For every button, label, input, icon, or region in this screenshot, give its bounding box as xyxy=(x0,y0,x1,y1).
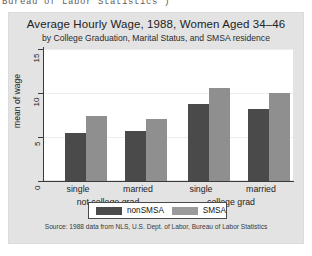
chart-screenshot: Bureau of Labor Statistics ) Average Hou… xyxy=(0,0,312,256)
chart-subtitle: by College Graduation, Marital Status, a… xyxy=(8,33,304,43)
source-note: Source: 1988 data from NLS, U.S. Dept. o… xyxy=(8,223,304,230)
bar-not-college-grad-single-nonsmsa xyxy=(65,133,86,181)
bar-not-college-grad-married-nonsmsa xyxy=(125,131,146,181)
bar-college-grad-single-smsa xyxy=(209,88,230,181)
x-axis-line xyxy=(43,181,294,182)
bar-college-grad-married-smsa xyxy=(269,93,290,181)
figure-panel: Average Hourly Wage, 1988, Women Aged 34… xyxy=(8,12,304,244)
y-tick-label-15: 15 xyxy=(33,54,42,63)
y-tick-label-0: 0 xyxy=(33,186,42,190)
legend-label-smsa: SMSA xyxy=(203,206,226,215)
bar-college-grad-single-nonsmsa xyxy=(188,104,209,181)
legend-item-nonsmsa[interactable]: nonSMSA xyxy=(96,206,164,215)
chart-legend: nonSMSA SMSA xyxy=(88,202,227,219)
x-label-group2-single: single xyxy=(173,184,229,194)
y-tick-0 xyxy=(38,181,43,182)
bar-not-college-grad-single-smsa xyxy=(86,116,107,181)
y-axis-label: mean of wage xyxy=(12,66,22,136)
bars-container xyxy=(43,49,294,181)
x-label-group1-married: married xyxy=(110,184,166,194)
y-tick-label-10: 10 xyxy=(33,98,42,107)
y-tick-label-5: 5 xyxy=(33,142,42,146)
legend-swatch-nonsmsa xyxy=(96,207,122,215)
x-label-group2-married: married xyxy=(233,184,289,194)
legend-swatch-smsa xyxy=(172,207,198,215)
bar-not-college-grad-married-smsa xyxy=(146,119,167,181)
clipped-header-text: Bureau of Labor Statistics ) xyxy=(2,0,170,7)
x-label-group1-single: single xyxy=(50,184,106,194)
legend-label-nonsmsa: nonSMSA xyxy=(127,206,164,215)
bar-college-grad-married-nonsmsa xyxy=(248,109,269,181)
chart-title: Average Hourly Wage, 1988, Women Aged 34… xyxy=(8,18,304,30)
legend-item-smsa[interactable]: SMSA xyxy=(172,206,226,215)
